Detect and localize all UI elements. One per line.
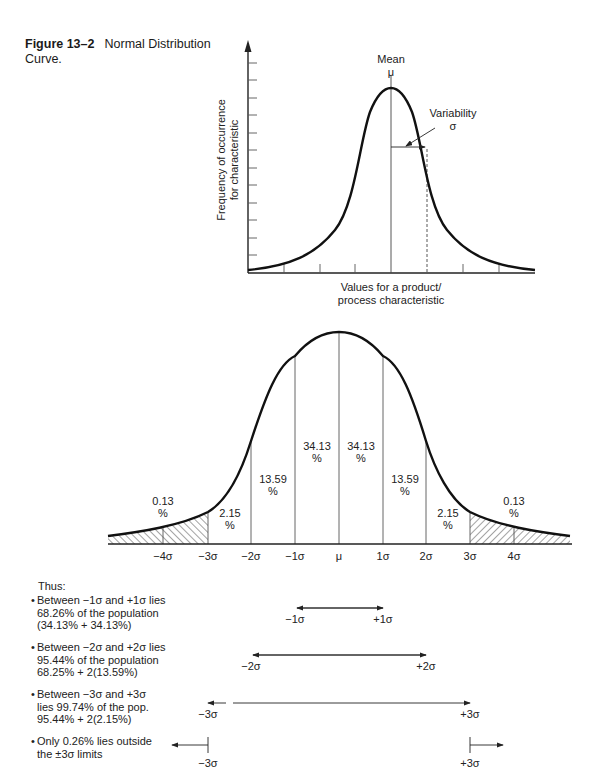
- tick-label: 3σ: [464, 550, 477, 562]
- y-axis-arrow-icon: [245, 40, 252, 52]
- note-line: 95.44% of the population: [37, 654, 166, 667]
- region-value: 13.59: [259, 473, 287, 485]
- y-axis-label-line2: for characteristic: [228, 119, 240, 200]
- bullet-icon: •: [31, 594, 35, 607]
- region-unit: %: [268, 485, 278, 497]
- note-3sigma: • Between −3σ and +3σ lies 99.74% of the…: [37, 688, 149, 726]
- mean-symbol: μ: [388, 66, 394, 78]
- tick-label: μ: [336, 550, 342, 562]
- note-outside-3sigma: • Only 0.26% lies outside the ±3σ limits: [37, 735, 152, 760]
- note-2sigma: • Between −2σ and +2σ lies 95.44% of the…: [37, 641, 166, 679]
- region-unit: %: [356, 452, 366, 464]
- tick-label: −1σ: [285, 550, 305, 562]
- y-axis-ticks: [248, 63, 257, 255]
- x-axis-label-line2: process characteristic: [338, 294, 445, 306]
- range-right-label: +3σ: [460, 757, 480, 769]
- region-unit: %: [158, 507, 168, 519]
- bottom-chart: −4σ −3σ −2σ −1σ μ 1σ 2σ 3σ 4σ 0.13 % 2.1…: [108, 332, 572, 562]
- note-line: Only 0.26% lies outside: [37, 735, 152, 748]
- tick-label: 1σ: [377, 550, 390, 562]
- region-value: 0.13: [503, 495, 524, 507]
- tick-label: −4σ: [153, 550, 173, 562]
- bullet-icon: •: [31, 688, 35, 701]
- variability-symbol: σ: [450, 120, 457, 132]
- range-left-label: −2σ: [241, 660, 261, 672]
- range-right-label: +2σ: [416, 660, 436, 672]
- tick-label: 4σ: [508, 550, 521, 562]
- note-line: 95.44% + 2(2.15%): [37, 713, 149, 726]
- tick-label: −3σ: [198, 550, 218, 562]
- bullet-icon: •: [31, 735, 35, 748]
- note-line: 68.26% of the population: [37, 607, 166, 620]
- region-value: 0.13: [152, 495, 173, 507]
- range-right-label: +1σ: [373, 613, 393, 625]
- range-outside-3sigma: −3σ +3σ: [172, 737, 503, 769]
- note-1sigma: • Between −1σ and +1σ lies 68.26% of the…: [37, 594, 166, 632]
- region-value: 34.13: [347, 440, 375, 452]
- notes-intro: Thus:: [38, 580, 66, 592]
- region-unit: %: [400, 485, 410, 497]
- note-line: Between −1σ and +1σ lies: [37, 594, 166, 607]
- region-unit: %: [509, 507, 519, 519]
- top-chart: Mean μ Variability σ Frequency of occurr…: [215, 40, 535, 306]
- range-1sigma: −1σ +1σ: [285, 608, 393, 625]
- variability-label: Variability: [430, 107, 477, 119]
- region-value: 2.15: [437, 507, 458, 519]
- range-left-label: −1σ: [285, 613, 305, 625]
- note-line: lies 99.74% of the pop.: [37, 701, 149, 714]
- mean-label: Mean: [377, 53, 405, 65]
- range-2sigma: −2σ +2σ: [241, 655, 436, 672]
- region-value: 2.15: [219, 507, 240, 519]
- region-value: 13.59: [391, 473, 419, 485]
- range-right-label: +3σ: [460, 708, 480, 720]
- range-left-label: −3σ: [198, 757, 218, 769]
- region-value: 34.13: [303, 440, 331, 452]
- tick-label: 2σ: [420, 550, 433, 562]
- sigma-dividers: [163, 332, 514, 544]
- note-line: 68.25% + 2(13.59%): [37, 666, 166, 679]
- normal-curve: [248, 88, 535, 270]
- sigma-tick-labels: −4σ −3σ −2σ −1σ μ 1σ 2σ 3σ 4σ: [153, 550, 520, 562]
- region-unit: %: [312, 452, 322, 464]
- note-line: (34.13% + 34.13%): [37, 619, 166, 632]
- note-line: Between −3σ and +3σ: [37, 688, 149, 701]
- bullet-icon: •: [31, 641, 35, 654]
- y-axis-label-line1: Frequency of occurrence: [215, 99, 227, 221]
- range-arrows: −1σ +1σ −2σ +2σ −3σ +3σ −3σ +3σ: [172, 608, 503, 769]
- range-left-label: −3σ: [198, 708, 218, 720]
- note-line: the ±3σ limits: [37, 748, 152, 761]
- x-axis-ticks: [284, 264, 499, 273]
- region-unit: %: [225, 519, 235, 531]
- region-unit: %: [443, 519, 453, 531]
- range-3sigma: −3σ +3σ: [198, 703, 480, 720]
- x-axis-label-line1: Values for a product/: [341, 281, 443, 293]
- tick-label: −2σ: [241, 550, 261, 562]
- note-line: Between −2σ and +2σ lies: [37, 641, 166, 654]
